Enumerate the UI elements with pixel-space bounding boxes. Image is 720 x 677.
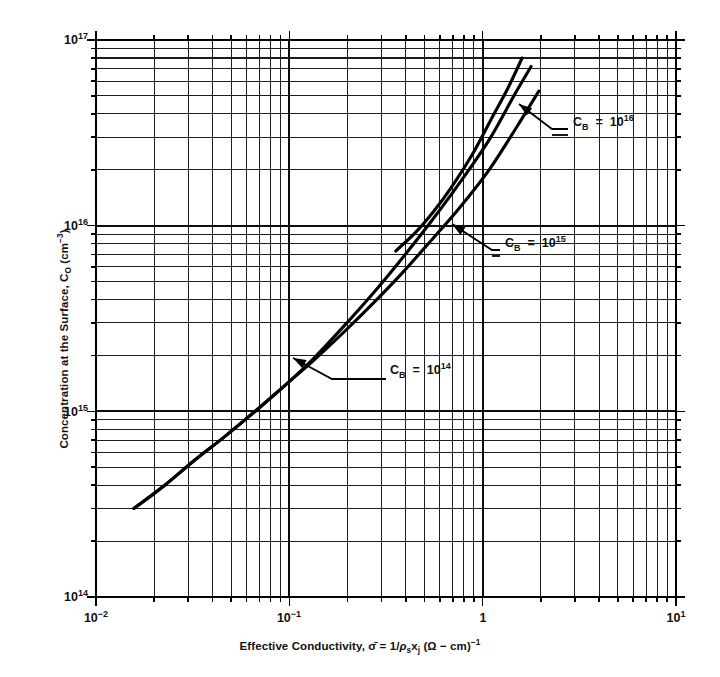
y-axis-title: Concentration at the Surface, CO (cm−3) [58,209,70,469]
cb-symbol: C [505,236,514,250]
xtick-label-3: 101 [667,611,686,625]
y-axis-unit-close: ) [58,229,70,233]
cb-exponent: 15 [556,234,566,244]
y-axis-title-lead: Concentration at the Surface, C [58,273,70,448]
y-axis-sub: O [64,267,73,274]
xtick-exp: −2 [98,609,108,619]
ytick-exp: 14 [78,588,88,598]
xtick-label-1: 10−1 [277,611,301,625]
cb-symbol: C [390,363,399,377]
cb-mantissa: 10 [542,236,556,250]
curve-2 [396,58,522,251]
chart-canvas [0,0,720,677]
xtick-mantissa: 1 [480,611,487,625]
xtick-label-0: 10−2 [84,611,108,625]
cb-symbol: C [573,115,582,129]
ytick-exp: 16 [78,217,88,227]
ytick-mantissa: 10 [64,590,78,604]
annotation-cb-1e14-label: CB = 1014 [390,363,451,377]
annotation-cb-1e14-leader [293,358,386,379]
cb-exponent: 14 [441,361,451,371]
xtick-mantissa: 10 [84,611,98,625]
axis-ticks-top [96,31,676,40]
xtick-mantissa: 10 [277,611,291,625]
cb-mantissa: 10 [427,363,441,377]
cb-subscript: B [582,122,589,132]
x-axis-unit: (Ω − cm) [423,640,470,652]
curve-1 [134,66,531,508]
ytick-label-3: 1014 [64,590,88,604]
x-axis-title: Effective Conductivity, σ̄ = 1/ρsxj (Ω −… [240,640,481,652]
axis-ticks-right [676,40,685,597]
cb-equals: = [412,363,419,377]
annotation-cb-1e16-label: CB = 1016 [573,115,634,129]
ytick-mantissa: 10 [64,33,78,47]
xtick-exp: −1 [291,609,301,619]
y-axis-title-wrap: Concentration at the Surface, CO (cm−3) [20,0,46,677]
cb-mantissa: 10 [610,115,624,129]
data-curves [134,58,539,508]
axis-ticks-bottom [96,597,676,606]
y-axis-unit-exp: −3 [56,233,65,243]
cb-subscript: B [399,370,406,380]
x-axis-x-sub: j [418,646,420,655]
cb-subscript: B [514,243,521,253]
x-axis-unit-exp: −1 [471,638,481,647]
ytick-label-0: 1017 [64,33,88,47]
x-axis-rho: ρ [399,640,406,652]
annotation-cb-1e15-label: CB = 1015 [505,236,566,250]
cb-equals: = [527,236,534,250]
x-axis-equals: = [380,640,387,652]
y-axis-unit: (cm [58,242,70,263]
axis-ticks-left [87,40,96,597]
ytick-exp: 17 [78,31,88,41]
x-axis-sigma-bar: σ̄ [368,640,376,652]
cb-equals: = [595,115,602,129]
xtick-mantissa: 10 [667,611,681,625]
cb-exponent: 16 [624,113,634,123]
xtick-exp: 1 [680,609,685,619]
x-axis-expr: 1/ [390,640,400,652]
x-axis-title-lead: Effective Conductivity, [240,640,365,652]
figure-irvin-curves: 10−2 10−1 1 101 1017 1016 1015 1014 CB =… [0,0,720,677]
xtick-label-2: 1 [480,611,487,625]
ytick-exp: 15 [78,403,88,413]
